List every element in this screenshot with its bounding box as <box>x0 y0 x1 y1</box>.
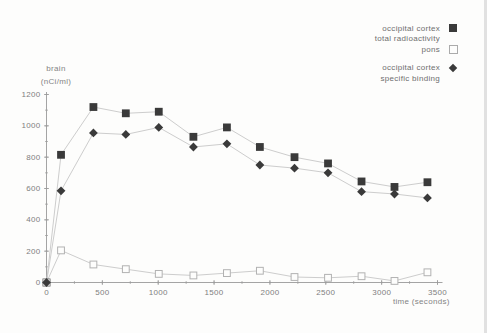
y-tick-label: 600 <box>26 184 40 193</box>
open-square-marker <box>190 272 197 279</box>
x-tick-label: 2000 <box>260 288 279 297</box>
figure: brain (nCi/ml) 0500100015002000250030003… <box>0 0 487 333</box>
open-square-icon <box>449 45 458 54</box>
x-tick-label: 1000 <box>149 288 168 297</box>
filled-diamond-marker <box>390 190 399 199</box>
filled-square-marker <box>256 143 264 151</box>
filled-square-marker <box>90 103 98 111</box>
filled-square-marker <box>223 124 231 132</box>
filled-square-marker <box>122 109 130 117</box>
y-tick-label: 800 <box>26 153 40 162</box>
open-square-marker <box>90 261 97 268</box>
filled-square-icon <box>449 24 457 32</box>
series-line-open-square <box>47 250 428 282</box>
open-square-marker <box>122 266 129 273</box>
filled-diamond-marker <box>223 139 232 148</box>
x-tick-label: 500 <box>95 288 109 297</box>
y-tick-label: 1000 <box>22 121 41 130</box>
legend-label: specific binding <box>322 74 440 83</box>
filled-square-marker <box>358 178 366 186</box>
y-tick-label: 200 <box>26 247 40 256</box>
legend-row-specific-1: occipital cortex <box>322 63 466 74</box>
filled-square-marker <box>424 178 432 186</box>
legend-row-specific-2: specific binding <box>322 73 466 84</box>
open-square-marker <box>58 247 65 254</box>
filled-square-marker <box>155 108 163 116</box>
filled-diamond-marker <box>324 168 333 177</box>
legend-label: pons <box>322 45 440 54</box>
x-axis-title: time (seconds) <box>393 297 450 306</box>
legend-row-pons: pons <box>322 44 466 55</box>
filled-square-marker <box>324 160 332 168</box>
legend-marker-cell <box>440 24 466 32</box>
open-square-marker <box>155 270 162 277</box>
open-square-marker <box>391 278 398 285</box>
filled-square-marker <box>57 151 65 159</box>
filled-diamond-marker <box>423 194 432 203</box>
filled-diamond-marker <box>57 186 66 195</box>
legend-label: occipital cortex <box>322 24 440 33</box>
filled-square-marker <box>190 133 198 141</box>
legend-marker-cell <box>440 45 466 54</box>
series-line-filled-diamond <box>47 127 428 282</box>
filled-diamond-marker <box>154 123 163 132</box>
y-tick-label: 0 <box>36 278 41 287</box>
legend-label: occipital cortex <box>322 63 440 72</box>
x-tick-label: 3500 <box>428 288 447 297</box>
x-tick-label: 2500 <box>316 288 335 297</box>
open-square-marker <box>325 274 332 281</box>
open-square-marker <box>291 274 298 281</box>
filled-diamond-marker <box>189 143 198 152</box>
open-square-marker <box>256 267 263 274</box>
y-tick-label: 400 <box>26 215 40 224</box>
filled-diamond-marker <box>89 128 98 137</box>
x-tick-label: 3000 <box>372 288 391 297</box>
x-tick-label: 0 <box>44 288 49 297</box>
x-tick-label: 1500 <box>205 288 224 297</box>
filled-diamond-marker <box>357 187 366 196</box>
filled-diamond-marker <box>255 161 264 170</box>
legend: occipital cortex total radioactivity pon… <box>322 23 466 84</box>
filled-diamond-marker <box>121 130 130 139</box>
legend-row-total-1: occipital cortex <box>322 23 466 34</box>
filled-square-marker <box>291 153 299 161</box>
legend-marker-cell <box>440 65 466 71</box>
open-square-marker <box>358 273 365 280</box>
legend-row-total-2: total radioactivity <box>322 34 466 45</box>
y-tick-label: 1200 <box>22 90 41 99</box>
open-square-marker <box>424 269 431 276</box>
filled-diamond-marker <box>290 164 299 173</box>
filled-diamond-icon <box>449 64 457 72</box>
open-square-marker <box>224 270 231 277</box>
legend-label: total radioactivity <box>322 34 440 43</box>
